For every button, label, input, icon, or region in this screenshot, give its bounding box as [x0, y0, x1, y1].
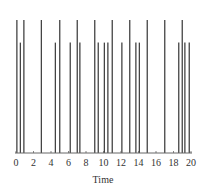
x-tick-label: 0 [14, 157, 19, 168]
x-tick-label: 20 [186, 157, 196, 168]
spike-train-chart: 02468101214161820 Time [0, 0, 206, 189]
x-tick-label: 6 [66, 157, 71, 168]
x-tick-label: 16 [151, 157, 161, 168]
x-tick-label: 18 [169, 157, 179, 168]
x-axis-label: Time [93, 174, 114, 185]
spike-series [17, 20, 189, 153]
x-tick-label: 12 [116, 157, 126, 168]
x-axis-ticks: 02468101214161820 [14, 151, 197, 168]
x-tick-label: 14 [134, 157, 144, 168]
x-tick-label: 10 [99, 157, 109, 168]
x-tick-label: 4 [49, 157, 54, 168]
x-tick-label: 2 [31, 157, 36, 168]
x-tick-label: 8 [84, 157, 89, 168]
